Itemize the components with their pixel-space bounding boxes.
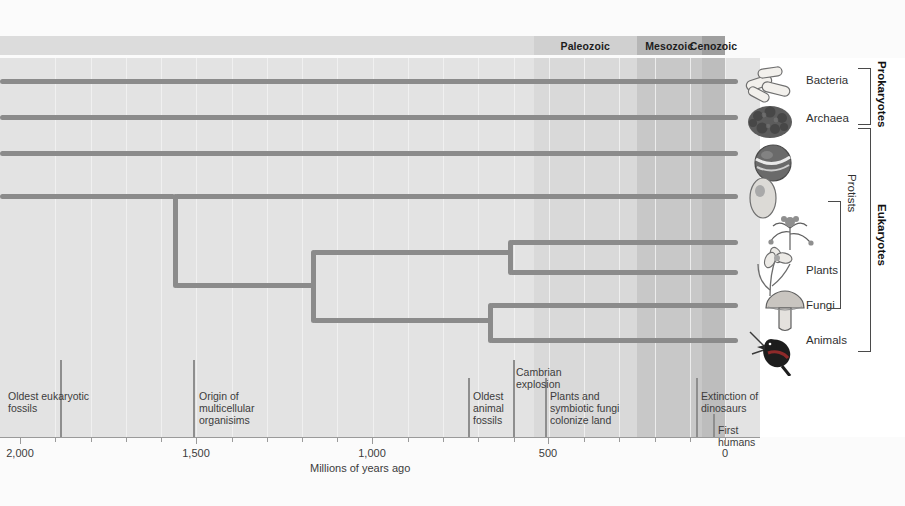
taxon-label-bacteria: Bacteria [806,74,848,86]
taxon-label-protists: Protists [846,174,858,212]
axis-tick-minor [514,437,515,442]
era-cenozoic: Cenozoic [702,36,725,55]
axis-tick-label: 1,000 [358,447,386,459]
branch-protist-2 [175,194,738,199]
axis-tick-major [548,437,549,444]
node-fungi-animal [488,303,493,343]
figure-root: PaleozoicMesozoicCenozoic Oldest eukaryo… [0,0,905,506]
branch-protist-3 [510,240,738,245]
era-precambrian [0,36,534,55]
branch-archaea [0,115,738,120]
event-mark-extinction-of-dinosaurs [696,378,698,437]
event-mark-first-humans [713,414,715,437]
axis-tick-minor [408,437,409,442]
axis-tick-minor [584,437,585,442]
animal-bird-icon [744,320,800,376]
axis-tick-minor [619,437,620,442]
axis-tick-minor [443,437,444,442]
event-label-cambrian-explosion: Cambrian explosion [516,366,562,390]
axis-tick-major [372,437,373,444]
bracket-eukaryotes [858,128,871,352]
event-label-oldest-eukaryotic-fossils: Oldest eukaryotic fossils [8,390,89,414]
bacteria-rods-icon [742,64,798,104]
axis-tick-label: 0 [722,447,728,459]
axis-tick-label: 2,000 [6,447,34,459]
axis-tick-major [725,437,726,444]
axis-tick-minor [690,437,691,442]
group-label-eukaryotes: Eukaryotes [876,204,888,266]
branch-fungi [490,303,738,308]
axis-tick-major [20,437,21,444]
node-multicellular [311,250,316,323]
axis-tick-minor [267,437,268,442]
axis-tick-minor [337,437,338,442]
taxon-label-archaea: Archaea [806,112,849,124]
taxon-label-animals: Animals [806,334,847,346]
branch-to-multicellular [175,283,313,288]
branch-plants [510,270,738,275]
group-label-prokaryotes: Prokaryotes [876,61,888,127]
branch-to-opisthokont [313,318,490,323]
protists-bracket [828,201,841,309]
axis-tick-minor [161,437,162,442]
branch-to-plant-clade [313,250,510,255]
axis-tick-minor [91,437,92,442]
axis-tick-minor [655,437,656,442]
branch-protist-1 [0,151,738,156]
axis-tick-minor [302,437,303,442]
event-label-extinction-of-dinosaurs: Extinction of dinosaurs [701,390,758,414]
axis-tick-label: 500 [539,447,557,459]
event-label-origin-multicellular: Origin of multicellular organisims [199,390,254,427]
taxa-legend: BacteriaArchaeaProtistsPlantsFungiAnimal… [760,58,905,437]
event-mark-oldest-animal-fossils [468,378,470,437]
branch-animals [490,338,738,343]
axis-tick-minor [478,437,479,442]
time-axis-line [0,437,760,438]
axis-tick-minor [126,437,127,442]
axis-tick-label: 1,500 [182,447,210,459]
event-mark-cambrian-explosion [513,360,515,437]
axis-title: Millions of years ago [310,462,410,474]
event-label-oldest-animal-fossils: Oldest animal fossils [473,390,504,427]
axis-tick-minor [55,437,56,442]
era-paleozoic: Paleozoic [534,36,637,55]
archaea-colony-icon [744,102,796,140]
axis-tick-minor [232,437,233,442]
branch-bacteria [0,79,738,84]
event-mark-origin-multicellular [193,360,195,437]
axis-tick-major [196,437,197,444]
bracket-prokaryotes [858,68,871,125]
node-eukaryote-root [173,194,178,288]
event-label-plants-fungi-colonize: Plants and symbiotic fungi colonize land [550,390,619,427]
branch-eukaryote-stem [0,194,175,199]
tree-plot-area: Oldest eukaryotic fossilsOrigin of multi… [0,58,760,437]
